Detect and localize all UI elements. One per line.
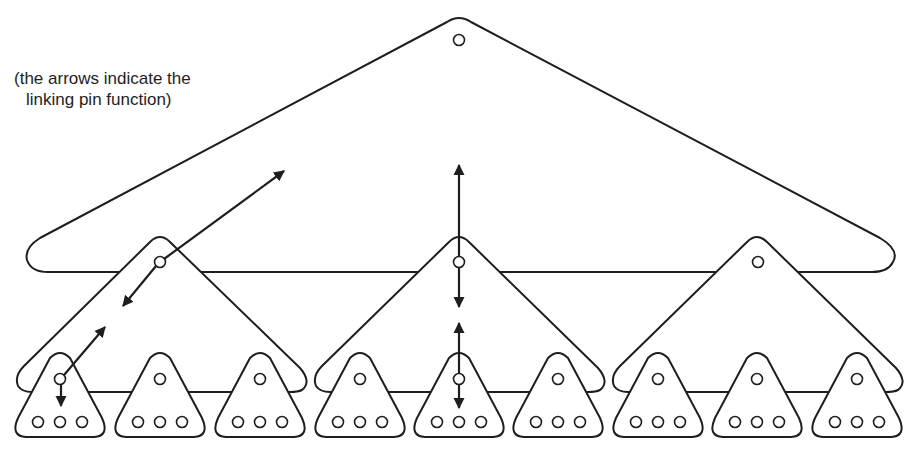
member-pin <box>531 417 542 428</box>
diagram-canvas <box>0 0 918 458</box>
member-pin <box>675 417 686 428</box>
leader-pin <box>852 374 863 385</box>
member-pin <box>874 417 885 428</box>
leader-pin <box>653 374 664 385</box>
leader-pin <box>454 374 465 385</box>
member-pin <box>852 417 863 428</box>
middle-group-3-pin <box>753 257 764 268</box>
member-pin <box>77 417 88 428</box>
member-pin <box>631 417 642 428</box>
member-pin <box>333 417 344 428</box>
member-pin <box>177 417 188 428</box>
member-pin <box>55 417 66 428</box>
member-pin <box>830 417 841 428</box>
member-pin <box>454 417 465 428</box>
member-pin <box>233 417 244 428</box>
leader-pin <box>752 374 763 385</box>
member-pin <box>255 417 266 428</box>
member-pin <box>752 417 763 428</box>
member-pin <box>133 417 144 428</box>
top-group-pin <box>454 35 465 46</box>
member-pin <box>575 417 586 428</box>
member-pin <box>553 417 564 428</box>
leader-pin <box>355 374 366 385</box>
member-pin <box>432 417 443 428</box>
member-pin <box>730 417 741 428</box>
leader-pin <box>553 374 564 385</box>
middle-group-2-pin <box>454 257 465 268</box>
member-pin <box>33 417 44 428</box>
top-group-triangle <box>27 18 895 272</box>
member-pin <box>277 417 288 428</box>
member-pin <box>653 417 664 428</box>
member-pin <box>355 417 366 428</box>
leader-pin <box>55 374 66 385</box>
member-pin <box>774 417 785 428</box>
member-pin <box>377 417 388 428</box>
member-pin <box>155 417 166 428</box>
leader-pin <box>155 374 166 385</box>
leader-pin <box>255 374 266 385</box>
member-pin <box>476 417 487 428</box>
linking-pin-diagram: (the arrows indicate the linking pin fun… <box>0 0 918 458</box>
top-group <box>27 18 895 272</box>
